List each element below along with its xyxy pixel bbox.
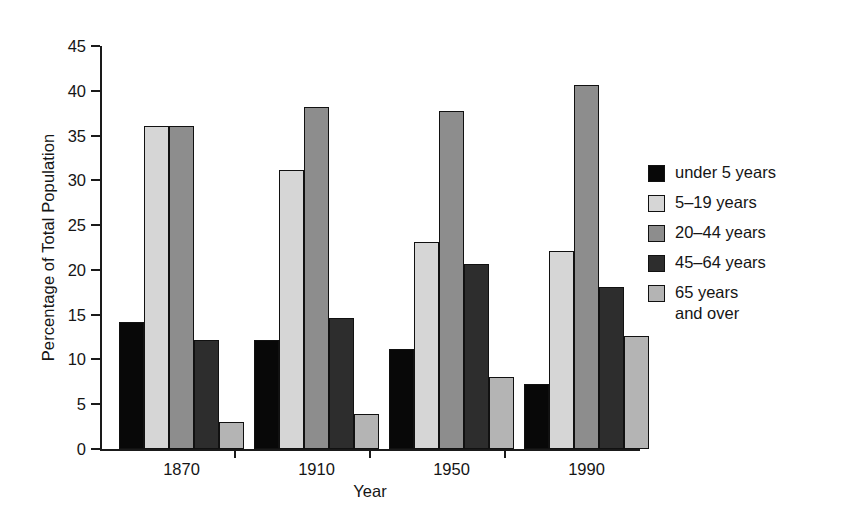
bar xyxy=(439,111,464,449)
bar-group xyxy=(524,46,649,449)
y-axis-tick xyxy=(91,179,100,181)
bar xyxy=(254,340,279,449)
y-axis-tick xyxy=(91,358,100,360)
x-axis-tick xyxy=(504,449,506,458)
legend-item: 45–64 years xyxy=(648,252,838,274)
bar-group xyxy=(254,46,379,449)
legend-label: 20–44 years xyxy=(675,222,766,243)
bar xyxy=(489,377,514,449)
legend-label: under 5 years xyxy=(675,162,776,183)
legend-item: 5–19 years xyxy=(648,192,838,214)
y-axis-tick xyxy=(91,90,100,92)
y-axis-line xyxy=(100,46,102,449)
y-axis-tick-label: 40 xyxy=(68,81,86,100)
y-axis-tick-label: 0 xyxy=(77,440,86,459)
legend-label: 65 years and over xyxy=(675,282,739,324)
y-axis-title: Percentage of Total Population xyxy=(39,48,58,448)
x-axis-tick-label: 1950 xyxy=(433,460,470,479)
bar xyxy=(169,126,194,449)
y-axis-tick xyxy=(91,224,100,226)
bar xyxy=(549,251,574,449)
y-axis-tick-label: 5 xyxy=(77,395,86,414)
bar xyxy=(624,336,649,449)
plot-area: 051015202530354045 1870191019501990 xyxy=(100,46,640,449)
y-axis-tick-label: 35 xyxy=(68,126,86,145)
x-axis-tick xyxy=(369,449,371,458)
bar xyxy=(389,349,414,449)
bar xyxy=(329,318,354,449)
legend-item: 65 years and over xyxy=(648,282,838,324)
y-axis-tick-label: 30 xyxy=(68,171,86,190)
bar xyxy=(574,85,599,449)
chart-legend: under 5 years5–19 years20–44 years45–64 … xyxy=(648,162,838,332)
legend-label: 5–19 years xyxy=(675,192,757,213)
bar xyxy=(279,170,304,449)
legend-swatch-icon xyxy=(648,285,665,302)
grouped-bar-chart: Percentage of Total Population 051015202… xyxy=(0,0,843,526)
y-axis-tick xyxy=(91,448,100,450)
bar xyxy=(599,287,624,449)
bar xyxy=(119,322,144,449)
legend-swatch-icon xyxy=(648,195,665,212)
bar xyxy=(354,414,379,449)
legend-swatch-icon xyxy=(648,165,665,182)
legend-swatch-icon xyxy=(648,255,665,272)
y-axis-tick xyxy=(91,314,100,316)
legend-swatch-icon xyxy=(648,225,665,242)
legend-item: under 5 years xyxy=(648,162,838,184)
x-axis-tick-label: 1870 xyxy=(163,460,200,479)
y-axis-tick-label: 15 xyxy=(68,305,86,324)
legend-label: 45–64 years xyxy=(675,252,766,273)
y-axis-tick-label: 25 xyxy=(68,216,86,235)
bar xyxy=(194,340,219,449)
bar xyxy=(219,422,244,449)
bar xyxy=(524,384,549,449)
x-axis-tick-label: 1990 xyxy=(568,460,605,479)
bar-group xyxy=(389,46,514,449)
y-axis-tick xyxy=(91,135,100,137)
bar xyxy=(304,107,329,449)
y-axis-tick xyxy=(91,45,100,47)
y-axis-tick xyxy=(91,269,100,271)
legend-item: 20–44 years xyxy=(648,222,838,244)
y-axis-tick-label: 10 xyxy=(68,350,86,369)
x-axis-title: Year xyxy=(100,482,640,501)
y-axis-tick xyxy=(91,403,100,405)
bar xyxy=(144,126,169,449)
bar xyxy=(464,264,489,449)
x-axis-tick-label: 1910 xyxy=(298,460,335,479)
x-axis-tick xyxy=(234,449,236,458)
bar-group xyxy=(119,46,244,449)
bar xyxy=(414,242,439,449)
y-axis-tick-label: 45 xyxy=(68,37,86,56)
y-axis-tick-label: 20 xyxy=(68,260,86,279)
